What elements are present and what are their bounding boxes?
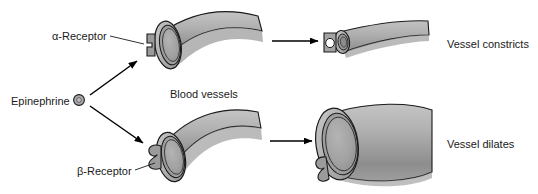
constricted-vessel bbox=[324, 21, 429, 58]
vessel-constricts-label: Vessel constricts bbox=[447, 39, 529, 50]
dilated-vessel bbox=[311, 104, 432, 186]
epinephrine-receptor-diagram: α-Receptor Epinephrine Blood vessels β-R… bbox=[0, 0, 538, 194]
beta-receptor-dilated-icon bbox=[316, 157, 329, 181]
arrow-down-right-icon bbox=[90, 106, 143, 143]
beta-receptor-label: β-Receptor bbox=[77, 166, 132, 177]
beta-receptor-icon bbox=[149, 145, 161, 169]
epinephrine-label: Epinephrine bbox=[11, 96, 70, 107]
epinephrine-molecule-icon bbox=[74, 95, 85, 106]
alpha-blood-vessel bbox=[110, 11, 263, 70]
beta-blood-vessel bbox=[135, 110, 262, 184]
alpha-receptor-icon bbox=[147, 34, 155, 56]
vessel-dilates-label: Vessel dilates bbox=[447, 139, 514, 150]
blood-vessels-label: Blood vessels bbox=[170, 89, 238, 100]
alpha-leader-line bbox=[110, 36, 144, 44]
alpha-receptor-constricted-icon bbox=[324, 33, 336, 52]
arrow-up-right-icon bbox=[90, 61, 137, 95]
alpha-receptor-label: α-Receptor bbox=[52, 31, 107, 42]
